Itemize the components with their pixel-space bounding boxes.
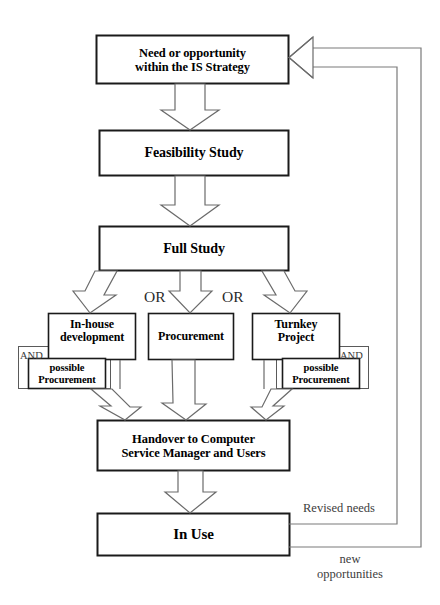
box-need-or-opportunity [97,36,289,84]
box-turnkey-project [253,314,340,360]
arrow-procurement-to-handover [162,360,206,420]
box-handover [98,421,290,471]
arrow-in-house-to-handover [91,389,141,420]
arrow-full-study-to-procurement [169,271,212,313]
arrow-need-to-feasibility [161,84,219,130]
arrow-handover-to-in-use [165,471,216,513]
box-procurement [149,314,234,360]
box-in-use [98,514,290,556]
arrow-feedback-into-need [289,37,313,78]
arrow-feasibility-to-full-study [161,176,219,226]
arrow-full-study-to-in-house [73,271,117,313]
box-feasibility-study [100,131,289,176]
box-in-house-development [49,314,136,360]
box-possible-procurement-left [29,359,106,389]
flowchart-canvas [0,0,440,605]
arrow-turnkey-to-handover [251,389,292,420]
box-possible-procurement-right [283,359,360,389]
feedback-line-revised-needs [289,67,397,524]
arrow-full-study-to-turnkey [262,271,307,313]
flowchart-diagram: Need or opportunity within the IS Strate… [0,0,440,605]
feedback-line-new-opportunities [289,48,421,547]
box-full-study [100,227,289,271]
